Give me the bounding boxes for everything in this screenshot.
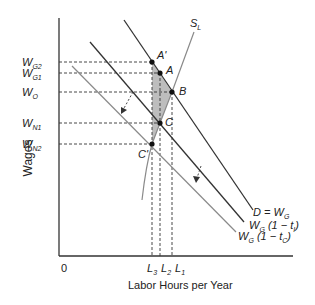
shift-arrow-right <box>193 166 201 183</box>
after-tax-c-label: WG (1 − tC) <box>238 230 291 244</box>
supply-label: SL <box>190 17 201 31</box>
svg-text:L2: L2 <box>161 262 171 276</box>
labor-tax-diagram: A' A B C C' WG2 WG1 WO WN1 WN2 L3 L2 L1 … <box>0 0 315 305</box>
svg-text:L3: L3 <box>147 262 157 276</box>
origin-label: 0 <box>61 262 67 274</box>
y-axis-label: Wages <box>21 140 35 177</box>
point-label-c: C <box>165 116 173 128</box>
svg-text:WO: WO <box>22 86 38 100</box>
demand-label: D = WG <box>253 206 290 220</box>
point-label-c-prime: C' <box>138 148 149 160</box>
x-axis-label: Labor Hours per Year <box>128 279 233 291</box>
point-label-b: B <box>179 85 186 97</box>
shift-arrow-left <box>121 92 133 114</box>
point-label-a: A <box>165 64 173 76</box>
svg-text:L1: L1 <box>175 262 185 276</box>
point-label-a-prime: A' <box>156 49 167 61</box>
x-tick-labels: L3 L2 L1 <box>147 262 185 276</box>
svg-text:WN1: WN1 <box>22 117 41 131</box>
y-tick-labels: WG2 WG1 WO WN1 WN2 <box>22 56 42 152</box>
